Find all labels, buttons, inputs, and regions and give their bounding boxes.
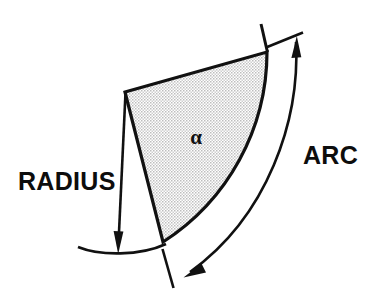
- radius-label: RADIUS: [18, 167, 116, 195]
- sector-diagram-svg: α RADIUS ARC: [0, 0, 377, 302]
- arc-label: ARC: [303, 141, 358, 169]
- angle-symbol-alpha: α: [190, 125, 202, 149]
- sector-diagram-canvas: α RADIUS ARC: [0, 0, 377, 302]
